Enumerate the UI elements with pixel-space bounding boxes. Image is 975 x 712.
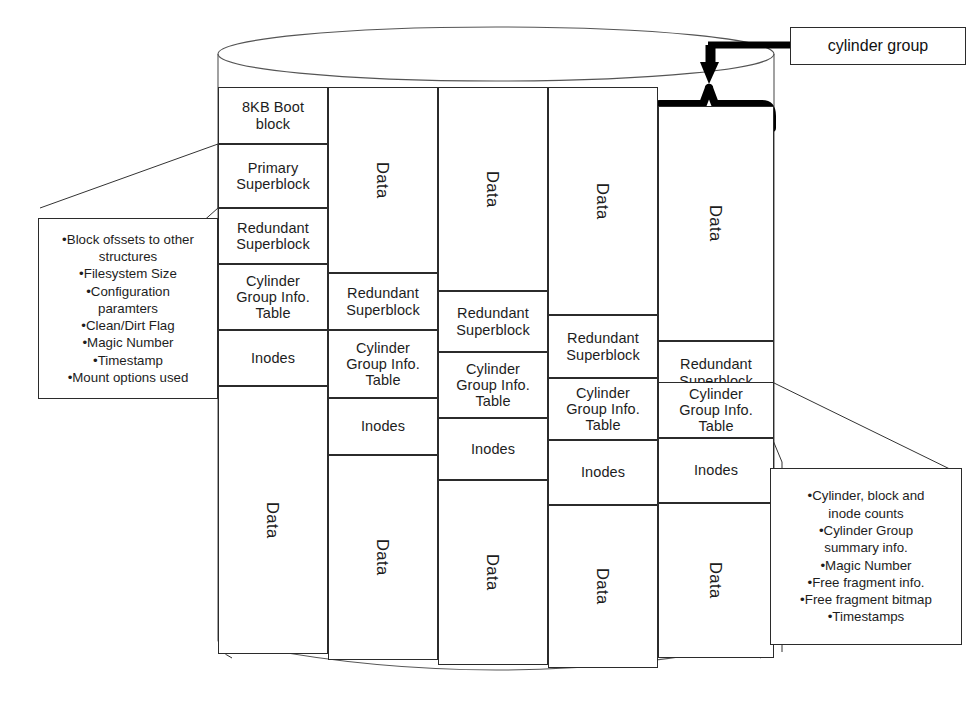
- primary-superblock-line2: Superblock: [236, 176, 310, 192]
- callout-line: paramters: [45, 300, 211, 317]
- redundant-superblock-line1: Redundant: [680, 356, 752, 372]
- segment-inodes: Inodes: [658, 438, 774, 503]
- inodes-label: Inodes: [471, 441, 515, 457]
- cg-info-line2: Group Info.: [566, 401, 640, 417]
- segment-primary-superblock: Primary Superblock: [218, 144, 328, 208]
- inodes-label: Inodes: [251, 350, 295, 366]
- cg-info-line3: Table: [255, 305, 290, 321]
- segment-inodes: Inodes: [218, 330, 328, 386]
- diagram-canvas: cylinder group 8KB Boot block Primary Su…: [0, 0, 975, 712]
- segment-data: Data: [438, 87, 548, 291]
- cg-info-line2: Group Info.: [679, 402, 753, 418]
- data-label: Data: [484, 554, 502, 590]
- callout-line: summary info.: [777, 539, 955, 556]
- cg-info-line3: Table: [698, 418, 733, 434]
- callout-line: •Magic Number: [777, 557, 955, 574]
- cylinder-group-tag-label: cylinder group: [828, 37, 929, 55]
- callout-line: •Cylinder Group: [777, 522, 955, 539]
- superblock-contents-callout: •Block ofssets to other structures •File…: [38, 218, 218, 399]
- cg-info-line2: Group Info.: [236, 289, 310, 305]
- callout-line: structures: [45, 248, 211, 265]
- segment-redundant-superblock: Redundant Superblock: [328, 273, 438, 330]
- callout-line: •Free fragment info.: [777, 574, 955, 591]
- segment-cg-info-table: Cylinder Group Info. Table: [658, 382, 774, 438]
- data-label: Data: [484, 171, 502, 207]
- cg-info-line1: Cylinder: [689, 386, 743, 402]
- cg-info-line1: Cylinder: [356, 340, 410, 356]
- cg-info-line3: Table: [475, 393, 510, 409]
- cg-info-line1: Cylinder: [246, 273, 300, 289]
- callout-line: •Configuration: [45, 283, 211, 300]
- callout-line: •Magic Number: [45, 334, 211, 351]
- inodes-label: Inodes: [581, 464, 625, 480]
- redundant-superblock-line1: Redundant: [567, 330, 639, 346]
- segment-cg-info-table: Cylinder Group Info. Table: [438, 352, 548, 418]
- segment-data: Data: [218, 386, 328, 654]
- data-label: Data: [594, 568, 612, 604]
- segment-cg-info-table: Cylinder Group Info. Table: [218, 264, 328, 330]
- data-label: Data: [594, 183, 612, 219]
- cylinder-group-info-callout: •Cylinder, block and inode counts •Cylin…: [770, 468, 962, 645]
- cg-info-line1: Cylinder: [466, 361, 520, 377]
- segment-data: Data: [548, 87, 658, 315]
- callout-line: •Mount options used: [45, 369, 211, 386]
- inodes-label: Inodes: [694, 462, 738, 478]
- callout-line: •Block ofssets to other: [45, 231, 211, 248]
- cg-info-line2: Group Info.: [346, 356, 420, 372]
- cg-info-line2: Group Info.: [456, 377, 530, 393]
- inodes-label: Inodes: [361, 418, 405, 434]
- segment-data: Data: [328, 87, 438, 273]
- callout-line: •Free fragment bitmap: [777, 591, 955, 608]
- segment-cg-info-table: Cylinder Group Info. Table: [328, 330, 438, 398]
- data-label: Data: [707, 562, 725, 598]
- redundant-superblock-line1: Redundant: [347, 285, 419, 301]
- cylinder-group-tag: cylinder group: [790, 27, 966, 65]
- segment-boot-block: 8KB Boot block: [218, 87, 328, 144]
- segment-data: Data: [438, 480, 548, 665]
- segment-data: Data: [328, 455, 438, 660]
- redundant-superblock-line2: Superblock: [456, 322, 530, 338]
- segment-redundant-superblock: Redundant Superblock: [218, 208, 328, 264]
- boot-block-line1: 8KB Boot: [242, 99, 304, 115]
- callout-line: •Timestamp: [45, 352, 211, 369]
- callout-line: •Filesystem Size: [45, 265, 211, 282]
- cg-info-line1: Cylinder: [576, 385, 630, 401]
- redundant-superblock-line2: Superblock: [566, 347, 640, 363]
- redundant-superblock-line1: Redundant: [457, 305, 529, 321]
- segment-inodes: Inodes: [438, 418, 548, 480]
- segment-cg-info-table: Cylinder Group Info. Table: [548, 378, 658, 440]
- callout-line: inode counts: [777, 505, 955, 522]
- cg-info-line3: Table: [585, 417, 620, 433]
- segment-redundant-superblock: Redundant Superblock: [438, 291, 548, 352]
- redundant-superblock-line2: Superblock: [346, 302, 420, 318]
- segment-data: Data: [658, 106, 774, 341]
- callout-line: •Timestamps: [777, 608, 955, 625]
- segment-inodes: Inodes: [328, 398, 438, 455]
- data-label: Data: [264, 502, 282, 538]
- segment-inodes: Inodes: [548, 440, 658, 505]
- boot-block-line2: block: [256, 116, 290, 132]
- primary-superblock-line1: Primary: [248, 160, 299, 176]
- segment-redundant-superblock: Redundant Superblock: [548, 315, 658, 378]
- data-label: Data: [374, 162, 392, 198]
- data-label: Data: [707, 205, 725, 241]
- redundant-superblock-line1: Redundant: [237, 220, 309, 236]
- callout-line: •Cylinder, block and: [777, 487, 955, 504]
- data-label: Data: [374, 539, 392, 575]
- redundant-superblock-line2: Superblock: [236, 236, 310, 252]
- cg-info-line3: Table: [365, 372, 400, 388]
- segment-data: Data: [548, 505, 658, 668]
- callout-line: •Clean/Dirt Flag: [45, 317, 211, 334]
- segment-data: Data: [658, 503, 774, 658]
